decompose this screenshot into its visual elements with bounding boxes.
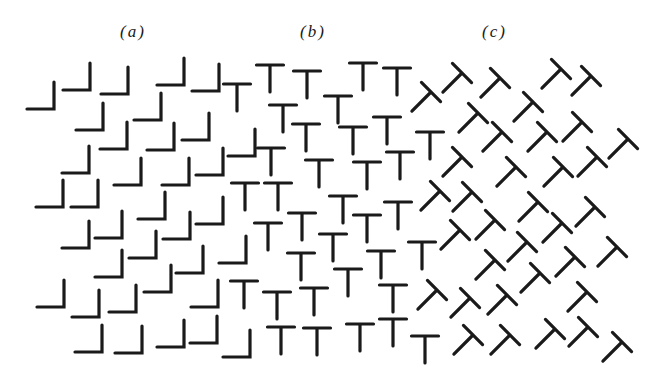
l-shape-glyph (157, 320, 184, 347)
l-shape-glyph (190, 316, 217, 343)
l-shape-glyph (37, 280, 64, 307)
l-shape-glyph (196, 148, 223, 175)
rotated-t-shape-glyph (411, 181, 449, 219)
l-shape-glyph (228, 129, 255, 156)
l-shape-glyph (196, 197, 223, 224)
t-shape-glyph (412, 336, 439, 363)
t-shape-glyph (387, 152, 414, 179)
t-shape-glyph (320, 234, 347, 261)
l-shape-glyph (75, 325, 102, 352)
l-shape-glyph (27, 82, 54, 109)
t-shape-glyph (325, 96, 352, 123)
l-shape-glyph (115, 326, 142, 353)
t-shape-glyph (304, 328, 331, 355)
rotated-t-shape-glyph (511, 263, 549, 301)
t-shape-glyph (306, 160, 333, 187)
l-shape-glyph (76, 103, 103, 130)
t-shape-glyph (380, 319, 407, 346)
l-shape-glyph (219, 236, 246, 263)
texture-segregation-figure (0, 0, 668, 378)
rotated-t-shape-glyph (441, 288, 479, 326)
t-shape-glyph (294, 71, 321, 98)
rotated-t-shape-glyph (546, 247, 584, 285)
l-shape-glyph (71, 180, 98, 207)
t-shape-glyph (335, 269, 362, 296)
rotated-t-shape-glyph (553, 112, 591, 150)
t-shape-glyph (270, 105, 297, 132)
rotated-t-shape-glyph (588, 237, 626, 275)
t-shape-glyph (385, 202, 412, 229)
rotated-t-shape-glyph (481, 325, 519, 363)
l-shape-glyph (144, 265, 171, 292)
rotated-t-shape-glyph (534, 157, 572, 195)
t-shape-glyph (258, 148, 285, 175)
t-shape-glyph (330, 196, 357, 223)
region-a-l-shapes (27, 58, 255, 357)
t-shape-glyph (374, 117, 401, 144)
rotated-t-shape-glyph (431, 220, 469, 258)
t-shape-glyph (368, 251, 395, 278)
rotated-t-shape-glyph (402, 82, 440, 120)
t-shape-glyph (347, 324, 374, 351)
t-shape-glyph (384, 68, 411, 95)
rotated-t-shape-glyph (566, 197, 604, 235)
t-shape-glyph (340, 127, 367, 154)
t-shape-glyph (288, 253, 315, 280)
l-shape-glyph (176, 246, 203, 273)
t-shape-glyph (350, 63, 377, 90)
rotated-t-shape-glyph (599, 129, 637, 167)
rotated-t-shape-glyph (408, 280, 446, 318)
l-shape-glyph (147, 123, 174, 150)
l-shape-glyph (114, 158, 141, 185)
l-shape-glyph (95, 250, 122, 277)
l-shape-glyph (62, 146, 89, 173)
rotated-t-shape-glyph (473, 122, 511, 160)
rotated-t-shape-glyph (532, 59, 570, 97)
l-shape-glyph (134, 93, 161, 120)
t-shape-glyph (354, 162, 381, 189)
l-shape-glyph (62, 221, 89, 248)
rotated-t-shape-glyph (509, 192, 547, 230)
l-shape-glyph (101, 67, 128, 94)
rotated-t-shape-glyph (562, 66, 600, 104)
region-b-upright-t-shapes (224, 63, 444, 363)
l-shape-glyph (95, 211, 122, 238)
rotated-t-shape-glyph (471, 68, 509, 106)
l-shape-glyph (223, 330, 250, 357)
l-shape-glyph (182, 113, 209, 140)
t-shape-glyph (293, 124, 320, 151)
rotated-t-shape-glyph (504, 92, 542, 130)
rotated-t-shape-glyph (487, 157, 525, 195)
l-shape-glyph (163, 212, 190, 239)
rotated-t-shape-glyph (568, 147, 606, 185)
t-shape-glyph (301, 288, 328, 315)
l-shape-glyph (109, 285, 136, 312)
t-shape-glyph (232, 183, 259, 210)
region-c-rotated-t-shapes (402, 59, 637, 370)
rotated-t-shape-glyph (466, 250, 504, 288)
t-shape-glyph (417, 132, 444, 159)
rotated-t-shape-glyph (444, 325, 482, 363)
t-shape-glyph (265, 183, 292, 210)
l-shape-glyph (191, 280, 218, 307)
rotated-t-shape-glyph (593, 332, 631, 370)
rotated-t-shape-glyph (559, 317, 597, 355)
rotated-t-shape-glyph (558, 282, 596, 320)
l-shape-glyph (72, 290, 99, 317)
rotated-t-shape-glyph (526, 319, 564, 357)
l-shape-glyph (192, 64, 219, 91)
t-shape-glyph (264, 292, 291, 319)
t-shape-glyph (255, 223, 282, 250)
l-shape-glyph (162, 158, 189, 185)
l-shape-glyph (36, 180, 63, 207)
rotated-t-shape-glyph (478, 285, 516, 323)
rotated-t-shape-glyph (449, 103, 487, 141)
l-shape-glyph (157, 58, 184, 85)
l-shape-glyph (129, 231, 156, 258)
t-shape-glyph (380, 285, 407, 312)
t-shape-glyph (268, 327, 295, 354)
t-shape-glyph (354, 215, 381, 242)
t-shape-glyph (224, 84, 251, 111)
t-shape-glyph (289, 213, 316, 240)
rotated-t-shape-glyph (518, 122, 556, 160)
